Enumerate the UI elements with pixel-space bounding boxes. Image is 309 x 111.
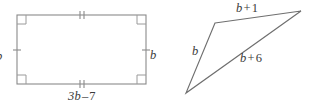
triangle-top-side-label: b+1 [236, 2, 258, 15]
rectangle-bottom-term: 3b [68, 89, 81, 103]
right-angle-marker-bottom-right [137, 75, 146, 84]
geometry-figure-canvas: b b 3b–7 b+1 b b+6 [0, 0, 309, 111]
triangle-top-operator: + [242, 1, 251, 15]
right-angle-marker-top-right [137, 15, 146, 24]
triangle-hyp-value: 6 [256, 51, 262, 65]
rectangle-left-side-label: b [0, 50, 2, 63]
triangle-left-side-label: b [192, 45, 198, 58]
rectangle-right-side-label: b [150, 49, 156, 62]
rectangle-bottom-side-label: 3b–7 [68, 90, 96, 103]
right-angle-marker-top-left [17, 15, 26, 24]
triangle-hyp-operator: + [246, 51, 255, 65]
right-angle-marker-bottom-left [17, 75, 26, 84]
triangle-hypotenuse-label: b+6 [240, 52, 262, 65]
triangle-top-value: 1 [252, 1, 258, 15]
rectangle-shape [13, 11, 150, 88]
rectangle-bottom-value: 7 [89, 89, 95, 103]
rectangle-outline [17, 15, 146, 84]
